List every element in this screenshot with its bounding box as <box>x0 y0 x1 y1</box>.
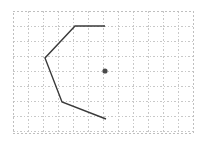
figure-canvas <box>0 0 203 144</box>
data-point-marker <box>102 68 107 73</box>
plot-svg <box>0 0 203 144</box>
figure-background <box>0 0 203 144</box>
